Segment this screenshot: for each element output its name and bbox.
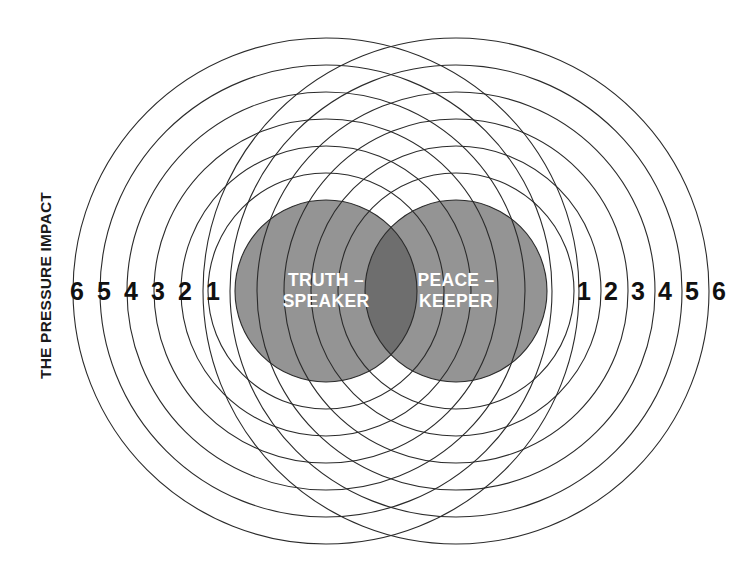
page-title: THE PRESSURE IMPACT [26, 0, 66, 571]
axis-title-container: THE PRESSURE IMPACT [26, 0, 66, 571]
pressure-impact-diagram [0, 0, 756, 571]
diagram-canvas: THE PRESSURE IMPACT 654321 123456 TRUTH … [0, 0, 756, 571]
